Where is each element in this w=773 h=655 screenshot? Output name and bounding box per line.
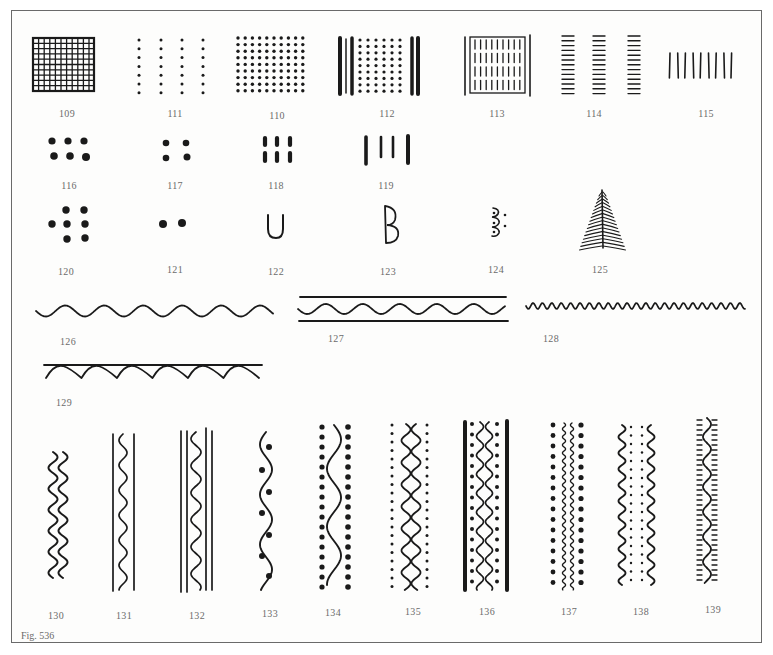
motif-label-117: 117 (167, 180, 183, 191)
motif-label-123: 123 (380, 266, 396, 277)
motif-drawings (0, 0, 773, 655)
motif-label-121: 121 (167, 264, 183, 275)
motif-label-122: 122 (268, 266, 284, 277)
motif-124-arcs-dots (492, 208, 506, 236)
motif-label-128: 128 (543, 333, 559, 344)
motif-115-vertical-strokes (669, 53, 731, 78)
motif-label-138: 138 (633, 606, 649, 617)
motif-123-b-loops (385, 206, 398, 243)
motif-label-115: 115 (698, 108, 714, 119)
motif-label-131: 131 (116, 610, 132, 621)
motif-130-double-wave (49, 452, 68, 578)
motif-127-wave-between-rules (298, 297, 508, 321)
motif-label-112: 112 (379, 108, 395, 119)
motif-110-dot-grid (236, 36, 304, 92)
motif-135-double-wave-dots (391, 424, 429, 591)
motif-label-129: 129 (56, 397, 72, 408)
motif-134-wave-dot-columns (319, 424, 350, 590)
motif-label-130: 130 (48, 610, 64, 621)
motif-label-116: 116 (61, 180, 77, 191)
motif-117-four-dots (163, 140, 191, 162)
motif-125-fir-tree (580, 190, 626, 250)
motif-133-wave-with-dots (259, 432, 272, 590)
motif-119-four-bars (366, 136, 408, 164)
figure-caption: Fig. 536 (21, 630, 54, 641)
motif-label-137: 137 (561, 606, 577, 617)
motif-122-u-arc (268, 215, 283, 238)
motif-109-grid (33, 38, 94, 91)
motif-label-132: 132 (189, 610, 205, 621)
motif-114-dash-columns (562, 36, 640, 94)
motif-116-six-dots (48, 137, 90, 161)
motif-label-120: 120 (58, 266, 74, 277)
motif-111-dot-columns (138, 39, 205, 95)
motif-131-wave-two-rules (113, 434, 134, 591)
motif-132-wave-double-rules (181, 428, 212, 592)
motif-label-134: 134 (325, 607, 341, 618)
motif-label-109: 109 (59, 108, 75, 119)
motif-136-wave-dots-bars (465, 421, 507, 590)
motif-label-110: 110 (269, 110, 285, 121)
motif-label-127: 127 (328, 333, 344, 344)
motif-label-124: 124 (488, 264, 504, 275)
motif-126-wave (36, 306, 273, 317)
motif-label-135: 135 (405, 606, 421, 617)
motif-112-dots-with-bars (340, 38, 418, 94)
motif-label-119: 119 (378, 180, 394, 191)
motif-137-thin-waves-dots (551, 422, 584, 590)
motif-120-dot-cluster (48, 206, 88, 242)
motif-label-136: 136 (479, 606, 495, 617)
motif-label-125: 125 (592, 264, 608, 275)
motif-label-111: 111 (167, 108, 182, 119)
motif-label-113: 113 (489, 108, 505, 119)
motif-128-tight-wave (526, 303, 745, 309)
motif-129-wave-under-rule (44, 365, 262, 378)
motif-118-six-dashes (265, 138, 290, 161)
motif-label-139: 139 (705, 604, 721, 615)
motif-label-118: 118 (268, 180, 284, 191)
motif-label-133: 133 (262, 608, 278, 619)
motif-139-wave-fringe (697, 418, 717, 583)
motif-113-framed-hatching (465, 35, 530, 96)
motif-label-126: 126 (60, 336, 76, 347)
motif-121-dot-pair (159, 219, 186, 228)
motif-138-dots-between-waves (619, 425, 655, 585)
motif-label-114: 114 (586, 108, 602, 119)
